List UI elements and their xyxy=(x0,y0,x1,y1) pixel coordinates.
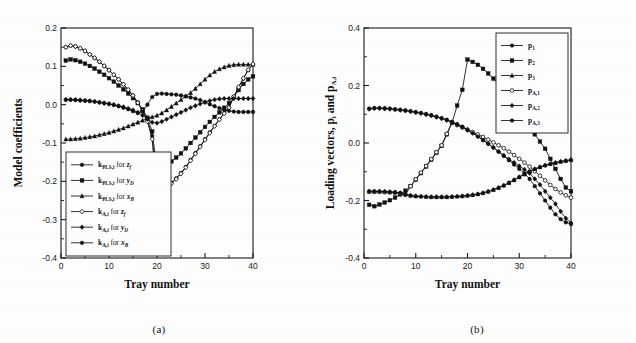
y-axis-title: Loading vectors, pi and pA,i xyxy=(324,77,338,210)
series-marker xyxy=(69,58,73,62)
series-marker xyxy=(88,52,92,57)
x-tick-label: 40 xyxy=(566,261,576,271)
series-marker xyxy=(471,60,475,64)
series-marker xyxy=(184,94,188,98)
series-marker xyxy=(486,72,490,76)
series-marker xyxy=(141,110,145,114)
series-marker xyxy=(492,188,496,192)
series-marker xyxy=(548,206,552,210)
series-marker xyxy=(64,59,68,63)
series-marker xyxy=(102,101,106,105)
series-marker xyxy=(98,70,102,74)
series-marker xyxy=(559,217,563,221)
y-tick-label: 0.1 xyxy=(45,61,57,71)
series-marker xyxy=(538,191,542,195)
series-marker xyxy=(184,108,188,113)
series-marker xyxy=(165,92,169,96)
series-marker xyxy=(548,157,552,161)
series-marker xyxy=(251,96,255,101)
y-tick-label: -0.4 xyxy=(42,253,57,263)
series-marker xyxy=(492,77,496,81)
series-marker xyxy=(564,159,568,163)
series-marker xyxy=(227,96,231,101)
series-marker xyxy=(69,98,73,102)
series-marker xyxy=(502,184,506,188)
series-marker xyxy=(69,43,73,48)
series-marker xyxy=(497,143,501,147)
x-tick-label: 0 xyxy=(59,261,64,271)
series-marker xyxy=(564,193,568,197)
series-marker xyxy=(538,165,542,169)
series-marker xyxy=(203,100,207,104)
series-marker xyxy=(179,152,183,156)
panel-b-plot: 0.40.20.0-0.2-0.4010203040Tray numberLoa… xyxy=(318,0,636,343)
series-marker xyxy=(419,171,423,175)
series-marker xyxy=(88,64,92,68)
x-tick-label: 30 xyxy=(515,261,525,271)
y-tick-label: -0.4 xyxy=(345,253,360,263)
series-marker xyxy=(174,156,178,160)
series-marker xyxy=(242,110,246,114)
series-marker xyxy=(460,194,464,198)
y-tick-label: -0.2 xyxy=(42,176,57,186)
series-marker xyxy=(179,110,183,115)
series-marker xyxy=(419,195,423,199)
series-marker xyxy=(174,101,178,105)
series-marker xyxy=(102,73,106,77)
series-marker xyxy=(78,99,82,103)
series-marker xyxy=(393,190,397,194)
series-marker xyxy=(222,108,226,112)
series-marker xyxy=(189,141,193,145)
series-marker xyxy=(126,107,130,111)
series-marker xyxy=(122,106,126,110)
x-tick-label: 10 xyxy=(411,261,421,271)
series-marker xyxy=(481,67,485,71)
series-marker xyxy=(507,150,511,154)
series-marker xyxy=(136,111,140,115)
series-marker xyxy=(378,189,382,193)
series-marker xyxy=(208,120,212,124)
series-marker xyxy=(455,195,459,199)
series-marker xyxy=(160,92,164,96)
series-marker xyxy=(107,102,111,106)
panel-a: 0.20.10.0-0.1-0.2-0.3-0.4010203040Tray n… xyxy=(0,0,318,343)
series-marker xyxy=(155,121,159,126)
y-tick-label: 0.2 xyxy=(348,81,360,91)
series-marker xyxy=(155,92,159,96)
series-marker xyxy=(131,109,135,113)
series-marker xyxy=(83,62,87,66)
series-marker xyxy=(492,141,496,145)
legend: kPLS,i for zfkPLS,i for yDkPLS,i for xBk… xyxy=(66,152,171,256)
series-marker xyxy=(367,203,371,207)
series-marker xyxy=(208,73,212,77)
panel-a-plot: 0.20.10.0-0.1-0.2-0.3-0.4010203040Tray n… xyxy=(0,0,318,343)
series-marker xyxy=(486,138,490,142)
series-marker xyxy=(388,190,392,194)
series-marker xyxy=(208,102,212,106)
legend: p1p2p3pA,1pA,2pA,3 xyxy=(496,33,568,133)
series-marker xyxy=(429,157,433,161)
series-marker xyxy=(122,87,126,91)
series-marker xyxy=(246,78,250,82)
series-marker xyxy=(198,130,202,134)
series-marker xyxy=(533,184,537,188)
y-tick-label: 0.0 xyxy=(348,138,360,148)
series-marker xyxy=(554,212,558,216)
series-marker xyxy=(74,58,78,62)
series-marker xyxy=(251,74,255,78)
x-tick-label: 40 xyxy=(248,261,258,271)
series-marker xyxy=(160,111,164,115)
series-marker xyxy=(559,191,563,195)
series-marker xyxy=(218,106,222,110)
series-marker xyxy=(440,143,444,147)
legend-marker xyxy=(80,179,84,183)
series-marker xyxy=(213,115,217,119)
series-6 xyxy=(367,158,573,199)
series-marker xyxy=(378,203,382,207)
series-marker xyxy=(222,96,226,101)
series-marker xyxy=(251,110,255,114)
series-marker xyxy=(517,175,521,179)
series-marker xyxy=(564,186,568,190)
series-marker xyxy=(388,198,392,202)
series-marker xyxy=(169,104,173,108)
